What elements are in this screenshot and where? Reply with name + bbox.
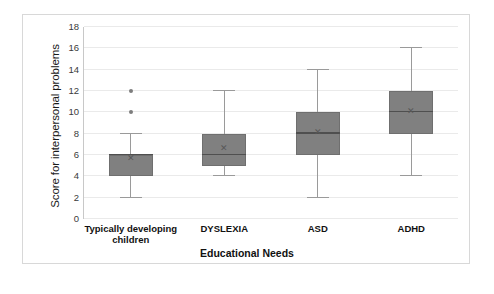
chart-frame: Score for interpersonal problems 0246810… (22, 14, 470, 264)
y-tick-label: 4 (74, 170, 79, 181)
boxplot-figure: Score for interpersonal problems 0246810… (0, 0, 494, 294)
x-tick-label: ASD (266, 224, 370, 235)
y-axis-title: Score for interpersonal problems (49, 21, 61, 231)
upper-whisker-cap (307, 69, 329, 70)
y-tick-label: 2 (74, 191, 79, 202)
box-plot-group: ✕ADHD (365, 27, 459, 219)
x-tick-label: DYSLEXIA (172, 224, 276, 235)
y-tick-label: 6 (74, 149, 79, 160)
upper-whisker-cap (120, 133, 142, 134)
plot-area: 024681012141618✕Typically developing chi… (83, 27, 458, 219)
median-line (202, 154, 246, 156)
lower-whisker-cap (400, 175, 422, 176)
box-plot-group: ✕DYSLEXIA (178, 27, 272, 219)
y-tick-label: 8 (74, 127, 79, 138)
outlier-point (129, 110, 133, 114)
y-tick-label: 10 (68, 106, 79, 117)
x-tick-label: Typically developing children (79, 224, 183, 246)
box-plot-group: ✕Typically developing children (84, 27, 178, 219)
outlier-point (129, 89, 133, 93)
y-tick-label: 16 (68, 42, 79, 53)
upper-whisker-cap (213, 90, 235, 91)
lower-whisker-cap (213, 175, 235, 176)
y-tick-label: 18 (68, 21, 79, 32)
y-tick-label: 12 (68, 85, 79, 96)
lower-whisker-cap (120, 197, 142, 198)
box-plot-group: ✕ASD (271, 27, 365, 219)
x-axis-title: Educational Needs (23, 247, 471, 259)
upper-whisker-cap (400, 47, 422, 48)
lower-whisker-cap (307, 197, 329, 198)
x-tick-label: ADHD (359, 224, 463, 235)
y-tick-label: 14 (68, 63, 79, 74)
y-tick-label: 0 (74, 213, 79, 224)
